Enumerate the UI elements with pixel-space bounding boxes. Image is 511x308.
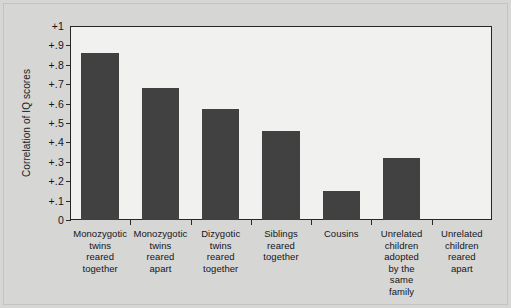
y-axis-tick-label: +.5 bbox=[34, 117, 64, 129]
y-axis-tick-label: +.6 bbox=[34, 98, 64, 110]
y-axis-tick-label: +.4 bbox=[34, 136, 64, 148]
y-axis-title: Correlation of IQ scores bbox=[18, 26, 34, 220]
plot-area-frame bbox=[70, 26, 492, 220]
x-axis-tick-mark-group bbox=[70, 220, 492, 225]
x-axis-tick-mark bbox=[191, 220, 192, 225]
x-axis-label: Cousins bbox=[311, 228, 371, 297]
figure-frame: Correlation of IQ scores +1+.9+.8+.7+.6+… bbox=[3, 3, 508, 305]
y-axis-tick-label: 0 bbox=[34, 214, 64, 226]
x-axis-tick-mark bbox=[311, 220, 312, 225]
y-axis-tick-label: +.1 bbox=[34, 195, 64, 207]
x-axis-label: Monozygotic twins reared together bbox=[70, 228, 130, 297]
x-axis-tick-mark bbox=[371, 220, 372, 225]
y-axis-tick-label: +.2 bbox=[34, 175, 64, 187]
y-axis-tick-label: +.7 bbox=[34, 78, 64, 90]
x-axis-label: Monozygotic twins reared apart bbox=[130, 228, 190, 297]
x-axis-label: Unrelated children adopted by the same f… bbox=[371, 228, 431, 297]
x-axis-tick-mark bbox=[130, 220, 131, 225]
x-axis-label: Dizygotic twins reared together bbox=[191, 228, 251, 297]
x-axis-label: Siblings reared together bbox=[251, 228, 311, 297]
y-axis-tick-label: +.9 bbox=[34, 39, 64, 51]
x-axis-tick-mark bbox=[251, 220, 252, 225]
y-axis-tick-label: +.3 bbox=[34, 156, 64, 168]
x-axis-label-group: Monozygotic twins reared togetherMonozyg… bbox=[70, 228, 492, 297]
plot-area-inner bbox=[71, 27, 491, 219]
x-axis-tick-mark bbox=[432, 220, 433, 225]
y-axis-tick-label: +1 bbox=[34, 20, 64, 32]
y-axis-tick-label-group: +1+.9+.8+.7+.6+.5+.4+.3+.2+.10 bbox=[34, 26, 64, 220]
y-axis-tick-label: +.8 bbox=[34, 59, 64, 71]
x-axis-label: Unrelated children reared apart bbox=[432, 228, 492, 297]
